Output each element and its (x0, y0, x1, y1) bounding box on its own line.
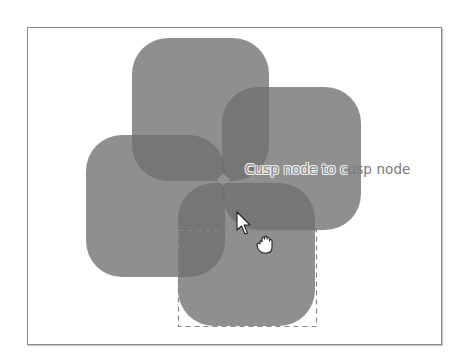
bottom-rounded-square[interactable] (178, 183, 315, 326)
snap-text-outlined: Cusp node to c (245, 161, 348, 177)
snap-indicator-tooltip: Cusp node to cusp node (245, 161, 410, 177)
drawing-canvas[interactable] (0, 0, 466, 359)
snap-text-plain: usp node (348, 161, 411, 177)
